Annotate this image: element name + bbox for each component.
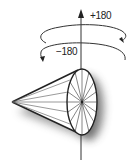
arrowhead-icon (40, 56, 45, 62)
axis-arrowhead-icon (78, 9, 84, 18)
cone-rotation-diagram: +180 −180 (0, 0, 136, 164)
diagram-svg (0, 0, 136, 164)
negative-rotation-label: −180 (56, 46, 77, 57)
positive-rotation-arc (41, 25, 126, 43)
negative-rotation-arc (40, 43, 125, 62)
positive-rotation-label: +180 (90, 10, 111, 21)
